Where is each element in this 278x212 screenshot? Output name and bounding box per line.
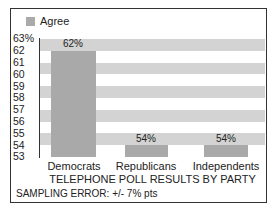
y-tick: 58 [13, 92, 39, 103]
legend-label: Agree [40, 15, 69, 27]
plot-area: 62% 54% 54% [40, 39, 265, 157]
legend: Agree [26, 15, 69, 27]
x-label-independents: Independents [186, 160, 266, 172]
y-tick: 56 [13, 116, 39, 127]
value-label-democrats: 62% [48, 38, 98, 49]
bar-republicans [125, 145, 168, 157]
y-tick: 61 [13, 57, 39, 68]
chart-title: TELEPHONE POLL RESULTS BY PARTY [40, 173, 265, 185]
bar-independents [204, 145, 248, 157]
value-label-republicans: 54% [121, 133, 171, 144]
y-axis [39, 38, 40, 158]
y-tick: 57 [13, 104, 39, 115]
y-tick: 62 [13, 45, 39, 56]
legend-swatch-icon [26, 17, 35, 26]
y-tick: 63% [13, 33, 39, 44]
bar-democrats [51, 51, 96, 157]
value-label-independents: 54% [201, 133, 251, 144]
x-label-democrats: Democrats [34, 160, 114, 172]
x-label-republicans: Republicans [106, 160, 186, 172]
sampling-error-note: SAMPLING ERROR: +/- 7% pts [16, 188, 157, 199]
y-tick: 55 [13, 128, 39, 139]
y-tick: 60 [13, 69, 39, 80]
